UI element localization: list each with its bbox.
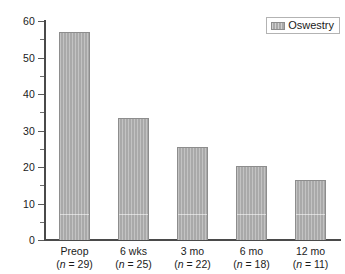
y-tick-minor bbox=[40, 222, 44, 223]
category-label: 12 mo(n = 11) bbox=[281, 245, 340, 270]
chart-legend[interactable]: Oswestry bbox=[266, 17, 340, 34]
y-tick-label: 0 bbox=[29, 235, 35, 245]
y-tick-label: 10 bbox=[23, 199, 35, 209]
category-name: 6 mo bbox=[240, 245, 263, 257]
category-sample-size: (n = 18) bbox=[222, 258, 281, 271]
bar-3-mo[interactable] bbox=[177, 147, 208, 240]
y-tick-label: 30 bbox=[23, 126, 35, 136]
category-sample-size: (n = 22) bbox=[163, 258, 222, 271]
y-tick-label: 50 bbox=[23, 53, 35, 63]
y-tick-major bbox=[38, 204, 44, 205]
category-name: 12 mo bbox=[296, 245, 325, 257]
y-tick-major bbox=[38, 21, 44, 22]
oswestry-swatch-icon bbox=[271, 22, 285, 30]
y-tick-major bbox=[38, 240, 44, 241]
y-tick-major bbox=[38, 167, 44, 168]
y-tick-label: 60 bbox=[23, 16, 35, 26]
y-tick-minor bbox=[40, 76, 44, 77]
y-tick-major bbox=[38, 131, 44, 132]
y-tick-label: 20 bbox=[23, 162, 35, 172]
y-tick-minor bbox=[40, 185, 44, 186]
y-tick-label: 40 bbox=[23, 89, 35, 99]
bar-12-mo[interactable] bbox=[295, 180, 326, 240]
y-tick-major bbox=[38, 94, 44, 95]
y-tick-minor bbox=[40, 149, 44, 150]
category-label: 3 mo(n = 22) bbox=[163, 245, 222, 270]
category-sample-size: (n = 29) bbox=[45, 258, 104, 271]
y-tick-major bbox=[38, 58, 44, 59]
category-sample-size: (n = 11) bbox=[281, 258, 340, 271]
bar-6-wks[interactable] bbox=[118, 118, 149, 240]
y-tick-minor bbox=[40, 112, 44, 113]
bar-chart: 0102030405060 Preop(n = 29)6 wks(n = 25)… bbox=[0, 0, 345, 274]
bar-preop[interactable] bbox=[59, 32, 90, 240]
category-label: Preop(n = 29) bbox=[45, 245, 104, 270]
bar-6-mo[interactable] bbox=[236, 166, 267, 240]
category-name: 3 mo bbox=[181, 245, 204, 257]
category-name: 6 wks bbox=[120, 245, 147, 257]
y-tick-minor bbox=[40, 39, 44, 40]
category-label: 6 wks(n = 25) bbox=[104, 245, 163, 270]
plot-area bbox=[45, 21, 340, 240]
category-name: Preop bbox=[60, 245, 88, 257]
y-axis-ticks: 0102030405060 bbox=[0, 0, 44, 274]
category-sample-size: (n = 25) bbox=[104, 258, 163, 271]
legend-label-oswestry: Oswestry bbox=[288, 20, 334, 31]
category-label: 6 mo(n = 18) bbox=[222, 245, 281, 270]
